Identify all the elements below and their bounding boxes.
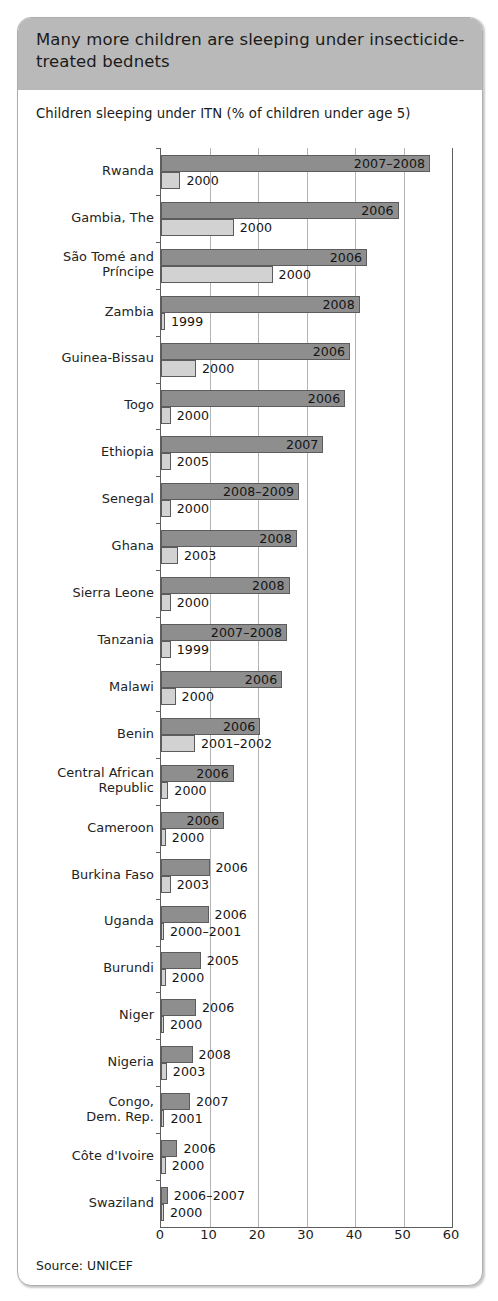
axis-tickmark	[156, 992, 161, 993]
bar-earlier	[161, 641, 171, 658]
axis-tickmark	[156, 711, 161, 712]
bar-year-recent: 2007	[161, 436, 323, 453]
bar-year-recent: 2006	[161, 390, 345, 407]
x-tick-label: 40	[346, 1227, 363, 1242]
axis-tickmark	[156, 195, 161, 196]
x-tick-label: 60	[443, 1227, 460, 1242]
bar-year-recent: 2008	[199, 1046, 231, 1063]
category-label: São Tomé and Príncipe	[17, 249, 154, 279]
table-row: Gambia, The20062000	[161, 195, 452, 242]
category-label: Burkina Faso	[17, 867, 154, 882]
table-row: Tanzania2007–20081999	[161, 617, 452, 664]
bar-year-earlier: 2000	[177, 594, 209, 611]
chart-subtitle: Children sleeping under ITN (% of childr…	[36, 106, 410, 121]
bar-earlier	[161, 453, 171, 470]
bar-earlier	[161, 594, 171, 611]
bar-year-earlier: 1999	[177, 641, 209, 658]
table-row: Burundi20052000	[161, 946, 452, 993]
axis-tickmark	[156, 148, 161, 149]
bar-year-earlier: 2005	[177, 453, 209, 470]
bar-year-recent: 2008–2009	[161, 483, 299, 500]
bar-year-recent: 2008	[161, 296, 360, 313]
bar-year-earlier: 2001	[170, 1110, 202, 1127]
x-tick-label: 30	[297, 1227, 314, 1242]
axis-tickmark	[156, 336, 161, 337]
category-label: Guinea-Bissau	[17, 350, 154, 365]
bar-year-earlier: 2003	[173, 1063, 205, 1080]
bar-year-recent: 2007–2008	[161, 624, 287, 641]
table-row: Uganda20062000–2001	[161, 899, 452, 946]
table-row: Cameroon20062000	[161, 805, 452, 852]
table-row: Ethiopia20072005	[161, 429, 452, 476]
bar-earlier	[161, 1157, 166, 1174]
bar-earlier	[161, 688, 176, 705]
figure-root: Many more children are sleeping under in…	[0, 0, 498, 1301]
axis-tickmark	[156, 805, 161, 806]
axis-tickmark	[156, 617, 161, 618]
axis-tickmark	[156, 899, 161, 900]
table-row: Niger20062000	[161, 992, 452, 1039]
x-tick-label: 20	[249, 1227, 266, 1242]
table-row: Guinea-Bissau20062000	[161, 336, 452, 383]
category-label: Nigeria	[17, 1054, 154, 1069]
category-label: Zambia	[17, 304, 154, 319]
bar-earlier	[161, 360, 196, 377]
bar-year-recent: 2006	[161, 812, 224, 829]
bar-year-recent: 2006–2007	[174, 1187, 245, 1204]
bar-year-recent: 2006	[161, 202, 399, 219]
axis-tickmark	[156, 1180, 161, 1181]
x-axis: 0102030405060	[160, 1227, 451, 1247]
bar-recent	[161, 859, 210, 876]
bar-year-recent: 2006	[161, 343, 350, 360]
category-label: Ghana	[17, 538, 154, 553]
bar-earlier	[161, 923, 164, 940]
table-row: Rwanda2007–20082000	[161, 148, 452, 195]
bar-earlier	[161, 1063, 167, 1080]
category-label: Benin	[17, 726, 154, 741]
table-row: Zambia20081999	[161, 289, 452, 336]
axis-tickmark	[156, 523, 161, 524]
bar-year-earlier: 2003	[184, 547, 216, 564]
bar-earlier	[161, 500, 171, 517]
category-label: Gambia, The	[17, 210, 154, 225]
bar-earlier	[161, 1016, 164, 1033]
bar-year-recent: 2006	[161, 765, 234, 782]
bar-earlier	[161, 829, 166, 846]
category-label: Senegal	[17, 491, 154, 506]
category-label: Côte d'Ivoire	[17, 1148, 154, 1163]
bar-year-earlier: 2003	[177, 876, 209, 893]
bar-year-recent: 2006	[215, 906, 247, 923]
bar-earlier	[161, 876, 171, 893]
table-row: Senegal2008–20092000	[161, 476, 452, 523]
bar-earlier	[161, 407, 171, 424]
bar-recent	[161, 952, 201, 969]
table-row: Swaziland2006–20072000	[161, 1180, 452, 1227]
category-label: Uganda	[17, 913, 154, 928]
bar-earlier	[161, 266, 273, 283]
bar-earlier	[161, 969, 166, 986]
bar-year-earlier: 2000	[202, 360, 234, 377]
axis-tickmark	[156, 476, 161, 477]
bar-earlier	[161, 735, 195, 752]
axis-tickmark	[156, 664, 161, 665]
axis-tickmark	[156, 852, 161, 853]
axis-tickmark	[156, 289, 161, 290]
bar-year-recent: 2006	[216, 859, 248, 876]
bar-year-recent: 2006	[161, 249, 367, 266]
category-label: Ethiopia	[17, 444, 154, 459]
bar-recent	[161, 906, 209, 923]
bar-earlier	[161, 172, 180, 189]
axis-tickmark	[156, 1086, 161, 1087]
bar-recent	[161, 1140, 177, 1157]
x-tick-label: 50	[394, 1227, 411, 1242]
bar-earlier	[161, 547, 178, 564]
bar-year-recent: 2007	[196, 1093, 228, 1110]
bar-recent	[161, 1093, 190, 1110]
plot-area: Rwanda2007–20082000Gambia, The20062000Sã…	[18, 134, 483, 1254]
bar-year-recent: 2008	[161, 577, 290, 594]
bar-year-earlier: 2000	[172, 969, 204, 986]
bar-year-recent: 2006	[202, 999, 234, 1016]
axis-tickmark	[156, 383, 161, 384]
axis-tickmark	[156, 1039, 161, 1040]
axis-tickmark	[156, 946, 161, 947]
